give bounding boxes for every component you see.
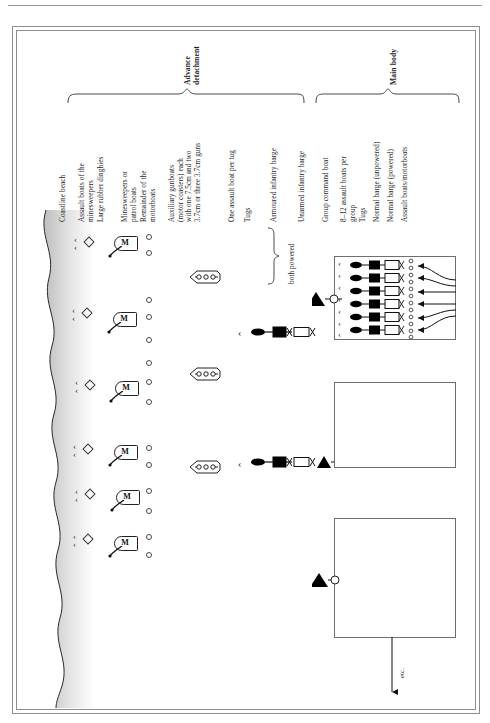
assault-boat-chevron: ‹ bbox=[75, 386, 78, 395]
motorboat-circle bbox=[146, 508, 152, 514]
svg-text:‹: ‹ bbox=[338, 282, 341, 292]
label-normal-barge-unpowered: Normal barge (unpowered) bbox=[373, 141, 382, 222]
label-tugs-advance: Tugs bbox=[244, 207, 253, 222]
motorboat-circle bbox=[146, 360, 152, 366]
svg-text:‹: ‹ bbox=[238, 327, 241, 338]
page-top-rule bbox=[8, 5, 482, 6]
label-remainder-motorboats: Remainder of the motorboats bbox=[140, 171, 157, 223]
motorboat-circle bbox=[146, 399, 152, 405]
motorboat-circle bbox=[146, 250, 152, 256]
motorboat-circle bbox=[146, 534, 152, 540]
group-box-contents: ‹ ‹ ‹ ‹ ‹ ‹ ‹ bbox=[312, 256, 460, 342]
label-one-assault-boat-per-tug: One assault boat per tug bbox=[228, 150, 237, 222]
motorboat-circle bbox=[146, 297, 152, 303]
label-armoured-infantry-barge: Armoured infantry barge bbox=[270, 148, 279, 222]
minesweeper-sweep-cable bbox=[109, 391, 125, 403]
header-main-body: Main body bbox=[390, 49, 399, 85]
motorboat-circle bbox=[146, 379, 152, 385]
assault-boat-chevron: ‹ bbox=[74, 243, 77, 252]
svg-text:‹: ‹ bbox=[338, 329, 341, 339]
assault-boat-chevron: ‹ bbox=[73, 450, 76, 459]
auxiliary-gunboat bbox=[188, 270, 222, 284]
label-assault-boats-motorboats: Assault boats/motorboats bbox=[401, 147, 410, 222]
svg-text:‹: ‹ bbox=[338, 318, 341, 328]
advance-convoy-train-with-command: ‹ bbox=[236, 452, 346, 472]
label-assault-boats-minesweepers: Assault boats of the minesweepers bbox=[78, 163, 95, 222]
assault-boat-chevron: ‹ bbox=[75, 495, 78, 504]
motorboat-circle bbox=[146, 337, 152, 343]
label-tugs-main: Tugs bbox=[359, 207, 368, 222]
minesweeper-sweep-cable bbox=[107, 322, 123, 334]
brace-main-body bbox=[314, 88, 462, 104]
brace-advance-detachment bbox=[66, 88, 306, 104]
auxiliary-gunboat bbox=[188, 367, 222, 381]
minesweeper-sweep-cable bbox=[110, 500, 126, 512]
motorboat-circle bbox=[146, 552, 152, 558]
assault-boat-chevron: ‹ bbox=[72, 314, 75, 323]
motorboat-circle bbox=[146, 314, 152, 320]
minesweeper-sweep-cable bbox=[108, 246, 124, 258]
svg-text:‹: ‹ bbox=[238, 458, 241, 469]
group-command-boat-symbol bbox=[312, 570, 342, 588]
motorboat-circle bbox=[146, 234, 152, 240]
label-normal-barge-powered: Normal barge (powered) bbox=[387, 149, 396, 222]
minesweeper-sweep-cable bbox=[108, 546, 124, 558]
label-minesweepers-patrol-boats: Minesweepers or patrol boats bbox=[121, 171, 138, 222]
minesweeper-sweep-cable bbox=[108, 455, 124, 467]
figure-canvas: Advance detachment Main body Coastline b… bbox=[16, 30, 474, 708]
header-advance-detachment: Advance detachment bbox=[184, 46, 201, 85]
svg-text:‹: ‹ bbox=[338, 270, 341, 280]
motorboat-circle bbox=[146, 488, 152, 494]
etc-label: etc. bbox=[398, 668, 406, 678]
label-group-command-boat: Group command boat bbox=[322, 158, 331, 222]
motorboat-circle bbox=[146, 462, 152, 468]
label-coastline-beach: Coastline beach bbox=[59, 175, 68, 222]
svg-text:‹: ‹ bbox=[338, 306, 341, 316]
label-unarmed-infantry-barge: Unarmed infantry barge bbox=[298, 151, 307, 222]
svg-text:‹: ‹ bbox=[338, 294, 341, 304]
brace-both-powered bbox=[266, 226, 304, 286]
svg-text:‹: ‹ bbox=[338, 258, 341, 268]
group-box-empty bbox=[334, 518, 456, 638]
label-auxiliary-gunboats: Auxiliary gunboats (motor coasters) each… bbox=[168, 143, 202, 222]
auxiliary-gunboat bbox=[188, 460, 222, 474]
assault-boat-chevron: ‹ bbox=[73, 540, 76, 549]
group-box-empty bbox=[334, 382, 456, 468]
label-assault-boats-per-group: 8–12 assault boats per group bbox=[340, 156, 357, 222]
motorboat-circle bbox=[146, 445, 152, 451]
label-both-powered: both powered bbox=[288, 243, 297, 284]
label-large-rubber-dinghies: Large rubber dinghies bbox=[97, 157, 106, 222]
coastline-beach-shape bbox=[16, 30, 96, 708]
